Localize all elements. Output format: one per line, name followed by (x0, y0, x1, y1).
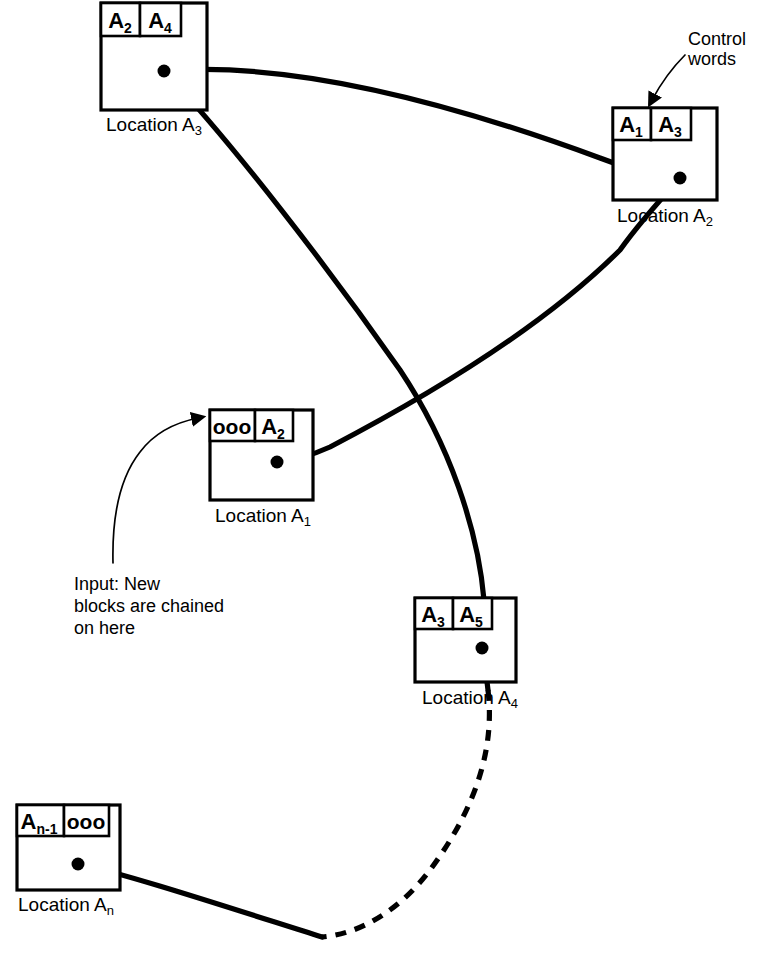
block-a1-cell-0-text: ooo (213, 415, 251, 438)
input-note-line-2: on here (74, 618, 135, 638)
chained-blocks-diagram: A2 A4 Location A3 A1 A3 Location A2 ooo … (0, 0, 769, 959)
block-a3-label: Location A3 (106, 114, 202, 138)
block-a3-pointer-dot (158, 65, 171, 78)
block-location-a4[interactable]: A3 A5 Location A4 (415, 598, 518, 711)
block-location-a2[interactable]: A1 A3 Location A2 (613, 108, 717, 229)
link-a4-to-an-dashed (322, 690, 489, 937)
block-a4-pointer-dot (476, 642, 489, 655)
annotation-input-note: Input: New blocks are chained on here (74, 418, 224, 638)
block-an-label: Location An (18, 894, 114, 918)
input-note-line-0: Input: New (74, 574, 161, 594)
block-a2-pointer-dot (674, 172, 687, 185)
block-location-an[interactable]: An-1 ooo Location An (17, 805, 120, 918)
input-note-pointer-arrow (113, 418, 198, 563)
block-a1-label: Location A1 (215, 505, 311, 529)
control-words-line-1: words (687, 49, 736, 69)
block-a1-pointer-dot (271, 456, 284, 469)
diagram-canvas: A2 A4 Location A3 A1 A3 Location A2 ooo … (0, 0, 769, 959)
control-words-pointer-arrow (652, 55, 685, 100)
input-note-line-1: blocks are chained (74, 596, 224, 616)
block-an-pointer-dot (72, 858, 85, 871)
control-words-line-0: Control (688, 29, 746, 49)
block-an-cell-1-text: ooo (67, 810, 105, 833)
annotation-control-words: Control words (652, 29, 746, 100)
link-a3-to-a4 (164, 71, 485, 648)
block-a4-label: Location A4 (422, 687, 518, 711)
block-a2-label: Location A2 (617, 205, 713, 229)
block-location-a3[interactable]: A2 A4 Location A3 (101, 3, 207, 138)
block-location-a1[interactable]: ooo A2 Location A1 (210, 410, 313, 529)
